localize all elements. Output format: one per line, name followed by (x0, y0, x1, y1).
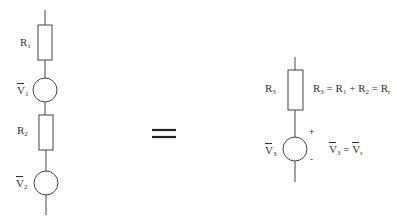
circuit-diagram (0, 0, 397, 219)
label-base: V (17, 85, 25, 96)
label-r3: R3 (265, 83, 276, 96)
eq-operator: = (327, 82, 333, 94)
eq-sub: 2 (365, 88, 369, 96)
eq-term: R (336, 82, 343, 94)
polarity-minus: - (310, 155, 313, 164)
label-sub: 2 (24, 183, 28, 191)
eq-sub: r (360, 149, 362, 157)
eq-sub: r (388, 88, 390, 96)
eq-sub: 3 (320, 88, 324, 96)
eq-sub: 1 (343, 88, 347, 96)
label-r2: R2 (17, 125, 28, 138)
eq-sub: 3 (337, 149, 341, 157)
label-sub: 1 (27, 42, 31, 50)
label-base: V (16, 178, 24, 189)
eq-operator: = (343, 143, 349, 155)
label-sub: 1 (25, 90, 29, 98)
right-equivalent-circuit (283, 57, 307, 182)
left-series-circuit (33, 10, 58, 215)
eq-operator: + (349, 82, 355, 94)
voltage-source-v2 (34, 171, 58, 195)
label-sub: 3 (272, 88, 276, 96)
voltage-source-v3 (283, 137, 307, 161)
label-r1: R1 (20, 37, 31, 50)
eq-term: V (352, 144, 360, 155)
equals-sign (152, 130, 176, 137)
resistor-r1 (38, 25, 52, 60)
label-v1: V1 (17, 85, 28, 98)
eq-term: R (381, 82, 388, 94)
voltage-equation: V3 = Vr (329, 144, 362, 157)
label-v2: V2 (16, 178, 27, 191)
eq-operator: = (372, 82, 378, 94)
label-sub: 3 (273, 150, 277, 158)
voltage-source-v1 (33, 78, 57, 102)
polarity-plus: + (309, 128, 314, 137)
label-v3: V3 (265, 145, 276, 158)
resistor-r2 (39, 115, 53, 150)
label-base: V (265, 145, 273, 156)
eq-term: V (329, 144, 337, 155)
resistor-r3 (288, 70, 303, 110)
resistance-equation: R3 = R1 + R2 = Rr (313, 83, 390, 96)
label-sub: 2 (24, 130, 28, 138)
